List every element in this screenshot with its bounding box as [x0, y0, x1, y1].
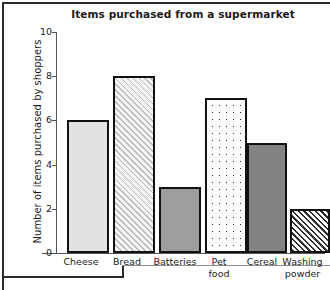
page-frame: Items purchased from a supermarket Numbe…: [0, 0, 330, 290]
y-tick-label-0: 0: [30, 248, 52, 258]
y-tick-label-4: 4: [30, 160, 52, 170]
x-tick-line-1: Washing: [275, 256, 330, 268]
x-tick-line-2: powder: [275, 268, 330, 280]
plot-area: [57, 32, 323, 253]
bar-pet-food[interactable]: [205, 98, 247, 253]
bar-batteries[interactable]: [159, 187, 201, 253]
y-tick-label-10: 10: [30, 27, 52, 37]
x-axis-line: [42, 253, 325, 254]
y-tick-label-6: 6: [30, 116, 52, 126]
x-tick-label-washing-powder: Washing powder: [275, 256, 330, 279]
x-tick-line-2: food: [190, 268, 248, 280]
y-axis-label: Number of items purchased by shoppers: [32, 32, 43, 252]
y-tick-mark-0: [52, 253, 57, 254]
bar-cereal[interactable]: [247, 143, 287, 254]
bar-chart: Items purchased from a supermarket Numbe…: [0, 0, 330, 290]
y-tick-label-2: 2: [30, 204, 52, 214]
bar-cheese[interactable]: [67, 120, 109, 253]
chart-title: Items purchased from a supermarket: [40, 8, 326, 20]
bar-washing-powder[interactable]: [290, 209, 330, 253]
y-tick-label-8: 8: [30, 71, 52, 81]
bar-bread[interactable]: [113, 76, 155, 253]
